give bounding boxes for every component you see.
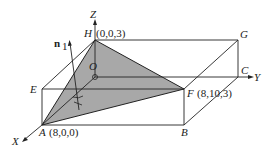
vertex-E-label: E (29, 83, 37, 95)
vertex-C-label: C (241, 64, 249, 76)
shaded-triangle-AHF (42, 40, 184, 125)
geometry-diagram: Z Y X O H (0,0,3) G C E F (8,10,3) B A (… (0, 0, 273, 155)
origin-label: O (89, 60, 97, 72)
normal-vector-label: n (54, 37, 60, 49)
x-axis-label: X (11, 135, 20, 147)
vertex-H-coords: (0,0,3) (96, 27, 126, 40)
normal-arrow-icon (68, 40, 72, 46)
vertex-A-coords: (8,0,0) (49, 126, 79, 139)
vertex-B-label: B (181, 126, 188, 138)
vertex-H-label: H (83, 27, 93, 39)
diagram-svg: Z Y X O H (0,0,3) G C E F (8,10,3) B A (… (0, 0, 273, 155)
vertex-G-label: G (240, 28, 248, 40)
vertex-F-label: F (186, 87, 194, 99)
vertex-A-label: A (38, 126, 46, 138)
vertex-F-coords: (8,10,3) (197, 87, 232, 100)
z-axis-label: Z (90, 8, 97, 20)
y-axis-label: Y (254, 71, 262, 83)
normal-vector-subscript: 1 (62, 40, 68, 52)
